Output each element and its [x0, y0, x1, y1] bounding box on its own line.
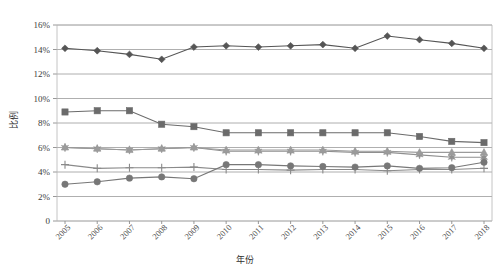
marker-diamond — [126, 51, 133, 58]
marker-circle — [384, 163, 390, 169]
x-tick-label: 2008 — [150, 222, 169, 241]
marker-circle — [255, 161, 261, 167]
marker-square — [449, 138, 455, 144]
marker-square — [320, 130, 326, 136]
x-tick-label: 2018 — [472, 222, 491, 241]
chart-container: 16%14%12%10%8%6%4%2%02005200620072008200… — [0, 0, 503, 275]
x-tick-label: 2016 — [408, 222, 427, 241]
marker-plus — [190, 163, 198, 171]
y-tick-label: 4% — [38, 167, 51, 177]
x-tick-label: 2012 — [279, 222, 298, 241]
marker-plus — [125, 164, 133, 172]
x-tick-label: 2007 — [118, 222, 137, 241]
marker-circle — [352, 164, 358, 170]
marker-square — [159, 121, 165, 127]
x-tick-label: 2011 — [247, 222, 266, 241]
marker-circle — [94, 179, 100, 185]
marker-plus — [61, 161, 69, 169]
x-tick-label: 2013 — [311, 222, 330, 241]
marker-square — [94, 108, 100, 114]
marker-triangle — [448, 149, 455, 155]
marker-diamond — [448, 40, 455, 47]
marker-circle — [320, 163, 326, 169]
x-tick-label: 2009 — [182, 222, 201, 241]
y-tick-label: 16% — [34, 20, 51, 30]
line-chart: 16%14%12%10%8%6%4%2%02005200620072008200… — [0, 0, 503, 275]
y-tick-label: 14% — [34, 45, 51, 55]
marker-square — [416, 133, 422, 139]
marker-square — [62, 109, 68, 115]
marker-circle — [481, 159, 487, 165]
marker-diamond — [481, 45, 488, 52]
marker-square — [255, 130, 261, 136]
marker-triangle — [481, 149, 488, 155]
marker-square — [126, 108, 132, 114]
marker-circle — [449, 165, 455, 171]
x-tick-label: 2010 — [214, 222, 233, 241]
marker-diamond — [384, 33, 391, 40]
series-diamond — [62, 33, 488, 63]
x-tick-label: 2017 — [440, 222, 459, 241]
y-tick-label: 6% — [38, 143, 51, 153]
marker-circle — [416, 165, 422, 171]
y-tick-label: 12% — [34, 69, 51, 79]
x-tick-labels: 2005200620072008200920102011201220132014… — [53, 221, 491, 241]
marker-plus — [158, 164, 166, 172]
marker-diamond — [287, 42, 294, 49]
marker-circle — [223, 161, 229, 167]
marker-diamond — [94, 47, 101, 54]
marker-square — [288, 130, 294, 136]
marker-diamond — [416, 36, 423, 43]
marker-square — [191, 124, 197, 130]
marker-circle — [126, 175, 132, 181]
marker-square — [481, 140, 487, 146]
y-tick-label: 8% — [38, 118, 51, 128]
x-tick-label: 2006 — [86, 222, 105, 241]
series-circle — [62, 159, 487, 187]
marker-diamond — [158, 56, 165, 63]
marker-diamond — [223, 42, 230, 49]
series-square — [62, 108, 487, 146]
marker-circle — [158, 174, 164, 180]
marker-diamond — [352, 45, 359, 52]
marker-plus — [93, 164, 101, 172]
marker-circle — [191, 176, 197, 182]
marker-circle — [287, 163, 293, 169]
y-tick-label: 2% — [38, 192, 51, 202]
marker-diamond — [319, 41, 326, 48]
x-tick-label: 2014 — [343, 222, 363, 242]
series-triangle — [62, 144, 488, 155]
marker-diamond — [62, 45, 69, 52]
marker-square — [384, 130, 390, 136]
y-axis-title: 比例 — [8, 111, 19, 129]
y-tick-label: 10% — [34, 94, 51, 104]
marker-circle — [62, 181, 68, 187]
y-tick-label: 0 — [46, 216, 51, 226]
x-tick-label: 2015 — [376, 222, 395, 241]
marker-square — [352, 130, 358, 136]
x-tick-label: 2005 — [53, 222, 72, 241]
marker-square — [223, 130, 229, 136]
x-axis-title: 年份 — [236, 254, 254, 265]
